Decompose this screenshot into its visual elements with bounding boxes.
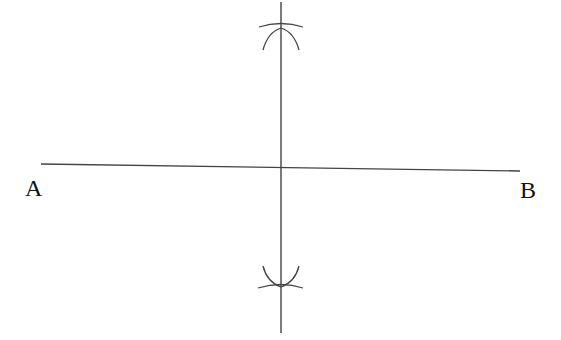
point-b-label: B [520, 178, 536, 202]
construction-diagram [0, 0, 561, 340]
point-a-label: A [25, 176, 42, 200]
